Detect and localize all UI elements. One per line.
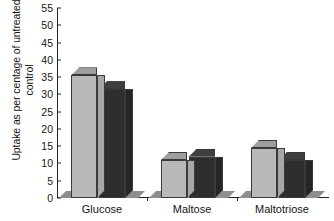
- bar-side-face: [305, 160, 313, 198]
- bar-top-face: [189, 149, 215, 157]
- y-tick-label: 45: [41, 37, 57, 48]
- y-tick-label: 10: [41, 158, 57, 169]
- y-tick-label: 15: [41, 141, 57, 152]
- y-tick-label: 40: [41, 55, 57, 66]
- y-tick-label: 55: [41, 3, 57, 14]
- y-tick-label: 0: [47, 193, 57, 204]
- bar-side-face: [215, 157, 223, 198]
- y-tick-label: 50: [41, 20, 57, 31]
- y-tick-label: 5: [47, 175, 57, 186]
- y-tick-label: 20: [41, 124, 57, 135]
- category-label: Maltose: [147, 203, 237, 216]
- y-tick-label: 30: [41, 89, 57, 100]
- x-tick-mark: [237, 197, 238, 201]
- bar: [251, 148, 277, 198]
- bar-top-face: [71, 67, 97, 75]
- bar-side-face: [97, 75, 105, 198]
- y-tick-label: 25: [41, 106, 57, 117]
- plot-area: [57, 8, 327, 198]
- bar-front-face: [161, 160, 187, 198]
- y-tick-label: 35: [41, 72, 57, 83]
- bar: [71, 75, 97, 198]
- category-label: Maltotriose: [237, 203, 327, 216]
- bar-front-face: [251, 148, 277, 198]
- bar-chart: Uptake as per centage of untreated contr…: [0, 0, 334, 221]
- bar: [161, 160, 187, 198]
- bar-front-face: [71, 75, 97, 198]
- y-axis-title: Uptake as per centage of untreated contr…: [10, 0, 42, 178]
- bar-top-face: [161, 152, 187, 160]
- x-tick-mark: [147, 197, 148, 201]
- bar-side-face: [125, 89, 133, 198]
- y-axis-title-line-1: Uptake as per centage of untreated: [10, 0, 23, 178]
- bar-top-face: [251, 140, 277, 148]
- bar-side-face: [277, 148, 285, 198]
- category-label: Glucose: [57, 203, 147, 216]
- y-axis-title-line-2: control: [23, 0, 36, 178]
